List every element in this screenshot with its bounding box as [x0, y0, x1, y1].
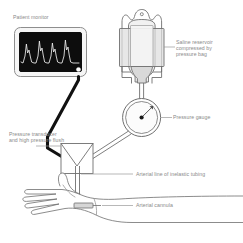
- cannula-hub: [74, 203, 93, 208]
- pressure-transducer: [61, 144, 93, 174]
- arterial-line-diagram: Patient monitor Saline reservoir compres…: [0, 0, 243, 243]
- saline-reservoir-assembly: [120, 10, 165, 84]
- patient-hand: [23, 173, 243, 223]
- label-arterial-line: Arterial line of inelastic tubing: [136, 171, 242, 177]
- saline-bag-front-panel: [131, 26, 154, 67]
- transducer-body: [61, 144, 93, 174]
- monitor-indicator-light: [76, 67, 80, 71]
- label-saline-reservoir: Saline reservoir compressed by pressure …: [176, 39, 242, 58]
- patient-monitor: [15, 28, 87, 77]
- bag-hanger-hole: [140, 13, 143, 16]
- label-patient-monitor: Patient monitor: [13, 14, 49, 20]
- label-arterial-cannula: Arterial cannula: [136, 202, 236, 208]
- saline-bag-outlet: [131, 67, 153, 84]
- monitor-screen: [20, 33, 82, 72]
- label-pressure-transducer: Pressure transducer and high pressure fl…: [9, 131, 67, 143]
- bag-to-gauge-tubing: [140, 83, 144, 99]
- gauge-hub: [140, 115, 144, 119]
- label-pressure-gauge: Pressure gauge: [173, 114, 241, 120]
